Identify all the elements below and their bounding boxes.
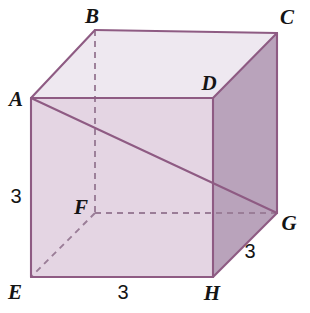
vertex-label-F: F	[74, 197, 88, 218]
vertex-label-E: E	[8, 282, 22, 303]
cube-figure: A B C D E F G H 3 3 3	[0, 0, 310, 313]
vertex-label-C: C	[280, 7, 294, 28]
cube-diagram	[0, 0, 310, 313]
vertex-label-A: A	[9, 89, 23, 110]
front-face	[31, 98, 213, 277]
vertex-label-B: B	[85, 6, 99, 27]
vertex-label-D: D	[201, 73, 216, 94]
edge-length-bottom: 3	[117, 282, 128, 302]
edge-length-depth: 3	[244, 241, 255, 261]
edge-length-height: 3	[10, 186, 21, 206]
vertex-label-G: G	[281, 213, 296, 234]
vertex-label-H: H	[204, 283, 220, 304]
